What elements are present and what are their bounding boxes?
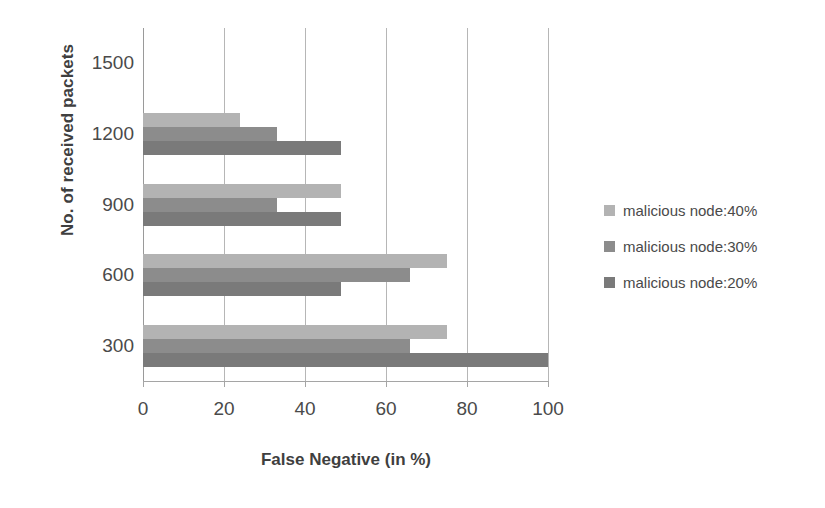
bar: [143, 141, 341, 155]
bar: [143, 339, 410, 353]
x-tick-label: 40: [275, 398, 335, 420]
x-tick-label: 60: [356, 398, 416, 420]
bar-chart: No. of received packets 1500120090060030…: [0, 0, 825, 508]
y-tick-label: 300: [68, 336, 134, 355]
y-tick-label: 900: [68, 195, 134, 214]
bar: [143, 127, 277, 141]
bar: [143, 282, 341, 296]
bar: [143, 353, 548, 367]
gridline-vertical: [548, 28, 549, 381]
bar: [143, 254, 447, 268]
legend-item[interactable]: malicious node:20%: [604, 264, 819, 300]
x-tick-mark: [467, 381, 468, 387]
x-tick-mark: [143, 381, 144, 387]
legend: malicious node:40%malicious node:30%mali…: [604, 192, 819, 300]
x-axis-line: [143, 381, 549, 382]
legend-item[interactable]: malicious node:30%: [604, 228, 819, 264]
legend-swatch-icon: [604, 205, 615, 216]
bar: [143, 325, 447, 339]
y-tick-label: 600: [68, 265, 134, 284]
legend-item[interactable]: malicious node:40%: [604, 192, 819, 228]
x-tick-mark: [548, 381, 549, 387]
legend-item-label: malicious node:20%: [623, 274, 757, 291]
legend-swatch-icon: [604, 241, 615, 252]
bar: [143, 184, 341, 198]
gridline-vertical: [467, 28, 468, 381]
bar: [143, 268, 410, 282]
legend-swatch-icon: [604, 277, 615, 288]
x-axis-title: False Negative (in %): [143, 450, 549, 470]
y-axis-tick-labels: 15001200900600300: [62, 0, 134, 508]
x-tick-mark: [224, 381, 225, 387]
bar: [143, 212, 341, 226]
x-tick-mark: [305, 381, 306, 387]
x-tick-mark: [386, 381, 387, 387]
legend-item-label: malicious node:40%: [623, 202, 757, 219]
bar: [143, 198, 277, 212]
bar: [143, 113, 240, 127]
x-tick-label: 100: [518, 398, 578, 420]
x-tick-label: 20: [194, 398, 254, 420]
plot-area: [143, 28, 548, 381]
y-tick-label: 1500: [68, 53, 134, 72]
x-tick-label: 0: [113, 398, 173, 420]
x-tick-label: 80: [437, 398, 497, 420]
legend-item-label: malicious node:30%: [623, 238, 757, 255]
y-tick-label: 1200: [68, 124, 134, 143]
